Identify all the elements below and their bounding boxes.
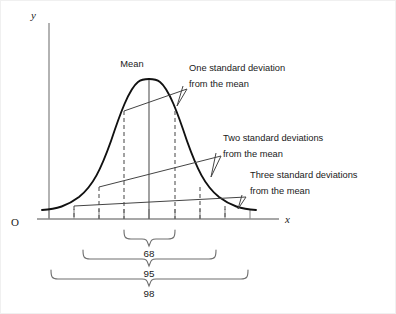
annotation-three-standard-deviations: Three standard deviations from the mean — [250, 170, 358, 196]
annotation-three-line1: Three standard deviations — [250, 170, 358, 180]
brace-68-group: 68 — [124, 230, 175, 259]
brace-98-value: 98 — [144, 288, 155, 299]
x-axis-label: x — [284, 213, 290, 225]
mean-label: Mean — [120, 59, 143, 69]
annotation-one-line2: from the mean — [189, 79, 249, 89]
sigma1-span-line — [124, 89, 187, 111]
sigma3-span-line — [74, 197, 246, 206]
annotation-three-line2: from the mean — [250, 186, 310, 196]
figure-container: y x O Mean One standard deviation from t… — [0, 0, 396, 314]
brace-68-value: 68 — [144, 248, 155, 259]
brace-68-path — [124, 230, 175, 246]
y-axis-label: y — [30, 9, 36, 21]
sigma2-span-line — [99, 156, 221, 187]
brace-95-value: 95 — [144, 268, 155, 279]
annotation-two-line1: Two standard deviations — [223, 133, 324, 143]
annotation-one-standard-deviation: One standard deviation from the mean — [189, 63, 285, 89]
annotation-one-line1: One standard deviation — [189, 63, 285, 73]
origin-label: O — [11, 216, 19, 228]
normal-distribution-figure: y x O Mean One standard deviation from t… — [1, 1, 396, 314]
sigma-span-lines — [74, 89, 246, 206]
annotation-two-line2: from the mean — [223, 149, 283, 159]
axis-group — [37, 23, 279, 219]
annotation-two-standard-deviations: Two standard deviations from the mean — [223, 133, 324, 159]
